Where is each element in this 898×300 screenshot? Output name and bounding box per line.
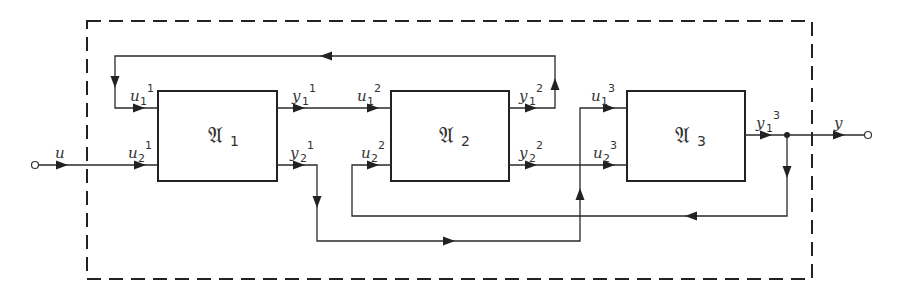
arrow-icon <box>443 237 455 246</box>
label-u11-sup: 1 <box>147 82 154 95</box>
arrow-icon <box>685 212 697 221</box>
arrow-icon <box>783 166 792 178</box>
label-y21-sup: 1 <box>307 139 314 152</box>
label-u21-sup: 1 <box>145 139 152 152</box>
label-u22-sub: 2 <box>371 152 378 165</box>
label-u12: u <box>357 87 367 105</box>
label-y11-sub: 1 <box>302 95 309 108</box>
label-u12-sub: 1 <box>367 95 374 108</box>
block-diagram: 𝔄 1 𝔄 2 𝔄 3 u y u 1 1 u 2 1 y 1 1 <box>0 0 898 300</box>
label-u13-sup: 3 <box>608 82 615 95</box>
label-u22: u <box>361 144 371 162</box>
label-y13-sup: 3 <box>773 109 780 122</box>
arrow-icon <box>111 76 120 88</box>
input-terminal <box>32 162 39 169</box>
label-u22-sup: 2 <box>378 139 385 152</box>
block-a1-symbol: 𝔄 <box>208 123 223 148</box>
label-y12-sup: 2 <box>536 82 543 95</box>
block-a2-symbol: 𝔄 <box>439 123 454 148</box>
arrow-icon <box>320 52 332 61</box>
label-y21: y <box>289 144 299 162</box>
label-u23-sup: 3 <box>610 139 617 152</box>
label-u23-sub: 2 <box>603 152 610 165</box>
label-u21: u <box>128 144 138 162</box>
block-a3-symbol: 𝔄 <box>675 123 690 148</box>
label-y22-sup: 2 <box>536 139 543 152</box>
label-u13: u <box>591 87 601 105</box>
label-u11-sub: 1 <box>140 95 147 108</box>
arrow-icon <box>313 196 322 208</box>
label-y21-sub: 2 <box>300 152 307 165</box>
block-a1-subscript: 1 <box>230 133 239 149</box>
block-a3-subscript: 3 <box>697 133 706 149</box>
label-u12-sup: 2 <box>374 82 381 95</box>
label-u11: u <box>130 87 140 105</box>
label-u: u <box>55 144 65 162</box>
label-y13: y <box>755 114 765 132</box>
arrow-icon <box>576 188 585 200</box>
label-u13-sub: 1 <box>601 95 608 108</box>
arrow-icon <box>551 78 560 90</box>
label-y22: y <box>518 144 528 162</box>
label-u23: u <box>593 144 603 162</box>
label-y: y <box>833 114 843 132</box>
label-y12-sub: 1 <box>529 95 536 108</box>
label-y11-sup: 1 <box>309 82 316 95</box>
output-terminal <box>865 132 872 139</box>
label-y13-sub: 1 <box>766 122 773 135</box>
label-y12: y <box>518 87 528 105</box>
label-y11: y <box>291 87 301 105</box>
block-a2-subscript: 2 <box>461 133 470 149</box>
label-u21-sub: 2 <box>138 152 145 165</box>
label-y22-sub: 2 <box>529 152 536 165</box>
